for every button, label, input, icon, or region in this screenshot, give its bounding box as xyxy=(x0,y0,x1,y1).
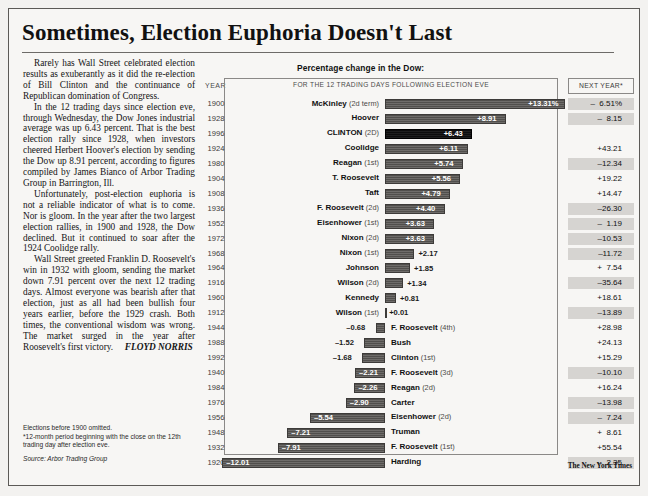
next-year-value: +43.21 xyxy=(568,143,634,155)
table-row: 1976Carter–2.90–13.98 xyxy=(0,395,648,410)
row-year: 1916 xyxy=(201,278,231,287)
value-label: +4.79 xyxy=(421,189,440,198)
value-label: +2.17 xyxy=(418,249,437,258)
row-year: 1952 xyxy=(201,219,231,228)
table-row: 1904T. Roosevelt+5.56+19.22 xyxy=(0,171,648,186)
president-label: Reagan (1st) xyxy=(333,158,379,167)
row-year: 1900 xyxy=(201,99,231,108)
president-label: Reagan (2d) xyxy=(391,383,435,392)
value-bar xyxy=(385,293,396,303)
president-label: Nixon (2d) xyxy=(341,233,379,242)
next-year-value: – 6.51% xyxy=(568,98,634,110)
row-year: 1940 xyxy=(201,368,231,377)
table-row: 1960Kennedy+0.81+18.61 xyxy=(0,290,648,305)
value-label: –1.68 xyxy=(333,353,352,362)
table-row: 1968Nixon (1st)+2.17–11.72 xyxy=(0,246,648,261)
value-bar xyxy=(376,323,385,333)
table-row: 1988Bush–1.52+24.13 xyxy=(0,335,648,350)
president-label: F. Roosevelt (4th) xyxy=(391,323,455,332)
next-year-value: –13.89 xyxy=(568,307,634,319)
value-label: –2.21 xyxy=(359,368,378,377)
next-year-value: +24.13 xyxy=(568,337,634,349)
table-row: 1952Eisenhower (1st)+3.63– 1.19 xyxy=(0,216,648,231)
value-bar xyxy=(364,338,385,348)
row-year: 1904 xyxy=(201,174,231,183)
value-label: +0.01 xyxy=(389,308,408,317)
value-label: –0.68 xyxy=(346,323,365,332)
president-label: T. Roosevelt xyxy=(332,173,379,182)
president-label: Wilson (1st) xyxy=(336,308,379,317)
president-label: Eisenhower (1st) xyxy=(317,218,379,227)
next-year-value: +19.22 xyxy=(568,173,634,185)
chart-rows: 1900McKinley (2d term)+13.31%– 6.51%1928… xyxy=(0,0,648,496)
row-year: 1960 xyxy=(201,293,231,302)
table-row: 1936F. Roosevelt (2d)+4.40–26.30 xyxy=(0,201,648,216)
table-row: 1916Wilson (2d)+1.34–35.64 xyxy=(0,275,648,290)
president-label: Wilson (2d) xyxy=(337,278,379,287)
president-label: Kennedy xyxy=(345,293,379,302)
row-year: 1948 xyxy=(201,428,231,437)
value-label: +8.91 xyxy=(477,114,496,123)
value-label: –7.91 xyxy=(282,443,301,452)
value-label: +6.11 xyxy=(439,144,458,153)
row-year: 1988 xyxy=(201,338,231,347)
row-year: 1996 xyxy=(201,129,231,138)
table-row: 1948Truman–7.21+ 8.61 xyxy=(0,425,648,440)
president-label: McKinley (2d term) xyxy=(312,99,379,108)
value-label: +3.63 xyxy=(406,234,425,243)
value-bar xyxy=(385,278,403,288)
next-year-value: –12.34 xyxy=(568,158,634,170)
row-year: 1944 xyxy=(201,323,231,332)
value-label: +1.85 xyxy=(414,264,433,273)
table-row: 1996CLINTON (2D)+6.43 xyxy=(0,126,648,141)
value-bar xyxy=(362,353,385,363)
row-year: 1912 xyxy=(201,308,231,317)
president-label: CLINTON (2D) xyxy=(327,128,379,137)
next-year-value: +16.24 xyxy=(568,382,634,394)
value-bar xyxy=(385,249,414,259)
table-row: 1984Reagan (2d)–2.26+16.24 xyxy=(0,380,648,395)
next-year-value: – 7.24 xyxy=(568,412,634,424)
next-year-value: –35.64 xyxy=(568,277,634,289)
row-year: 1936 xyxy=(201,204,231,213)
value-bar xyxy=(385,263,410,273)
value-label: –1.52 xyxy=(335,338,354,347)
next-year-value: –26.30 xyxy=(568,203,634,215)
table-row: 1964Johnson+1.85+ 7.54 xyxy=(0,260,648,275)
value-label: –2.90 xyxy=(350,398,369,407)
row-year: 1992 xyxy=(201,353,231,362)
next-year-value xyxy=(568,128,634,140)
president-label: F. Roosevelt (2d) xyxy=(317,203,379,212)
next-year-value: –13.98 xyxy=(568,397,634,409)
next-year-value: +15.29 xyxy=(568,352,634,364)
next-year-value: + 8.61 xyxy=(568,427,634,439)
value-label: –5.54 xyxy=(314,413,333,422)
president-label: Clinton (1st) xyxy=(391,353,436,362)
table-row: 1912Wilson (1st)+0.01–13.89 xyxy=(0,305,648,320)
table-row: 1932F. Roosevelt (1st)–7.91+55.54 xyxy=(0,440,648,455)
table-row: 1928Hoover+8.91– 8.15 xyxy=(0,111,648,126)
table-row: 1980Reagan (1st)+5.74–12.34 xyxy=(0,156,648,171)
next-year-value: +14.47 xyxy=(568,188,634,200)
president-label: F. Roosevelt (1st) xyxy=(391,442,455,451)
president-label: Bush xyxy=(391,338,411,347)
row-year: 1976 xyxy=(201,398,231,407)
row-year: 1984 xyxy=(201,383,231,392)
row-year: 1968 xyxy=(201,249,231,258)
next-year-value: –10.53 xyxy=(568,233,634,245)
value-label: +3.63 xyxy=(406,219,425,228)
table-row: 1944F. Roosevelt (4th)–0.68+28.98 xyxy=(0,320,648,335)
value-bar xyxy=(385,204,445,214)
next-year-value: +28.98 xyxy=(568,322,634,334)
table-row: 1940F. Roosevelt (3d)–2.21–10.10 xyxy=(0,365,648,380)
president-label: Johnson xyxy=(346,263,379,272)
value-label: –12.01 xyxy=(226,458,249,467)
president-label: Nixon (1st) xyxy=(340,248,379,257)
president-label: Coolidge xyxy=(345,143,379,152)
next-year-value: –11.72 xyxy=(568,248,634,260)
president-label: Hoover xyxy=(351,113,379,122)
next-year-value: +55.54 xyxy=(568,442,634,454)
row-year: 1924 xyxy=(201,144,231,153)
table-row: 1908Taft+4.79+14.47 xyxy=(0,186,648,201)
next-year-value: – 8.15 xyxy=(568,113,634,125)
